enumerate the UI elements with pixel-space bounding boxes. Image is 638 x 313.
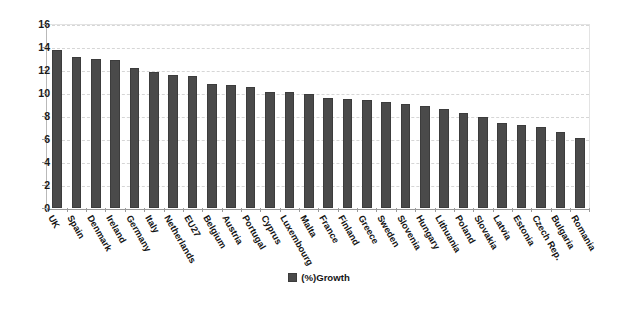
bar	[149, 72, 159, 208]
y-axis-tick-mark	[42, 70, 46, 71]
bar	[497, 123, 507, 208]
bar	[323, 98, 333, 208]
legend-label: (%)Growth	[301, 272, 350, 283]
bar	[362, 100, 372, 208]
bar	[478, 117, 488, 208]
bar	[517, 125, 527, 208]
y-axis-tick-mark	[42, 116, 46, 117]
bar	[381, 102, 391, 208]
bar	[168, 75, 178, 208]
bar	[265, 92, 275, 208]
bar	[246, 87, 256, 208]
bar	[72, 57, 82, 208]
y-axis-tick-mark	[42, 162, 46, 163]
y-axis-tick-mark	[42, 47, 46, 48]
bar	[207, 84, 217, 208]
bar	[575, 138, 585, 208]
bar	[343, 99, 353, 208]
bar	[52, 50, 62, 208]
y-axis-tick-mark	[42, 185, 46, 186]
legend-swatch-icon	[288, 273, 297, 282]
bar	[401, 104, 411, 208]
bar	[110, 60, 120, 208]
x-axis-tick-label: UK	[46, 214, 61, 230]
bar-chart: 0246810121416 UKSpainDenmarkIrelandGerma…	[0, 0, 638, 313]
x-axis-tick-label: EU27	[182, 214, 202, 239]
bar	[536, 127, 546, 208]
y-axis-tick-mark	[42, 93, 46, 94]
bar	[285, 92, 295, 208]
bar	[91, 59, 101, 209]
x-axis-tick-label: Malta	[298, 214, 318, 239]
bar	[459, 113, 469, 208]
x-axis-tick-label: Spain	[65, 214, 86, 241]
y-axis-tick-mark	[42, 24, 46, 25]
bar	[439, 109, 449, 208]
bar	[420, 106, 430, 208]
bar	[556, 132, 566, 208]
bar	[130, 68, 140, 208]
bar-series	[47, 24, 589, 208]
x-axis-tick-label: Italy	[143, 214, 160, 235]
bar	[304, 94, 314, 208]
y-axis-tick-mark	[42, 139, 46, 140]
chart-legend: (%)Growth	[0, 272, 638, 284]
bar	[188, 76, 198, 208]
bar	[226, 85, 236, 208]
